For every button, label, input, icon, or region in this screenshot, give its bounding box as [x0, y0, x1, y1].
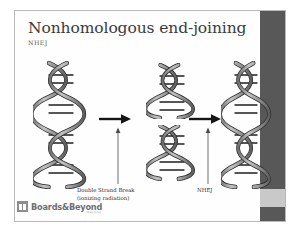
logo-text-wrap: Boards&Beyond teaching: [31, 202, 102, 212]
sidebar-band-lower: [260, 207, 285, 221]
title-block: Nonhomologous end-joining NHEJ: [28, 20, 248, 46]
slide-footer: Boards&Beyond teaching: [15, 195, 262, 221]
caption-nhej: NHEJ: [197, 187, 213, 195]
arrow-up-icon: [114, 127, 122, 189]
nhej-process-diagram: [15, 59, 262, 191]
slide-subtitle: NHEJ: [28, 39, 248, 46]
logo-mark-icon: [17, 201, 28, 212]
sidebar-band-accent: [260, 189, 285, 207]
dna-helix-icon: [221, 61, 271, 189]
dna-helix-broken-icon: [146, 125, 198, 181]
presentation-slide: Nonhomologous end-joining NHEJ: [14, 10, 286, 222]
scanned-page: Nonhomologous end-joining NHEJ: [0, 0, 303, 242]
caption-line-1: NHEJ: [197, 187, 213, 195]
arrow-up-icon: [204, 127, 212, 189]
slide-title: Nonhomologous end-joining: [28, 20, 248, 37]
dna-helix-icon: [33, 61, 89, 189]
logo-subtext: teaching: [86, 210, 101, 214]
caption-line-1: Double Strand Break: [77, 187, 135, 195]
boards-and-beyond-logo: Boards&Beyond teaching: [17, 201, 102, 212]
